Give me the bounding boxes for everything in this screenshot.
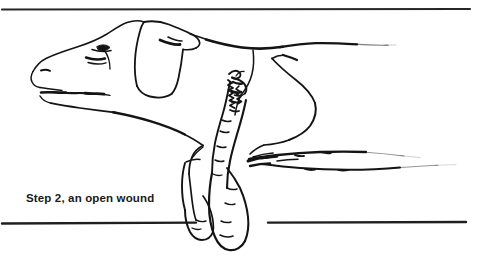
- wound-hatch-2: [231, 91, 241, 93]
- figure-illustration: Step 2, an open wound: [0, 0, 489, 272]
- figure-caption: Step 2, an open wound: [26, 191, 154, 205]
- figure-background: [0, 0, 489, 272]
- bottom-rule-left: [2, 223, 196, 224]
- top-rule: [2, 9, 470, 10]
- nostril-icon: [41, 70, 50, 71]
- dog-line-drawing: [0, 0, 489, 272]
- bottom-rule-right: [268, 222, 466, 223]
- hind-leg-fur-tick-3: [305, 169, 315, 170]
- hind-leg-joint-mark-4: [262, 157, 277, 159]
- hind-leg-fur-tick-2: [322, 153, 331, 154]
- hind-leg-fur-tick-4: [338, 170, 348, 171]
